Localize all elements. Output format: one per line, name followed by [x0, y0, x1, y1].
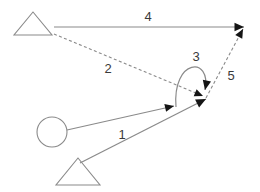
- triangle-bottom[interactable]: [56, 158, 100, 185]
- circle-left[interactable]: [37, 117, 67, 147]
- edge-label-5: 5: [227, 68, 234, 83]
- diagram-canvas: 1 2 3 4 5: [0, 0, 260, 192]
- labels-layer: 1 2 3 4 5: [104, 9, 234, 142]
- connector-2[interactable]: [54, 34, 203, 96]
- edge-label-4: 4: [144, 9, 151, 24]
- arrowhead-3: [203, 80, 211, 90]
- edge-label-2: 2: [104, 61, 111, 76]
- triangle-top-left[interactable]: [14, 12, 52, 35]
- connector-6[interactable]: [80, 99, 206, 163]
- connector-5[interactable]: [206, 29, 243, 98]
- arrowhead-1: [164, 104, 174, 112]
- arrowhead-5: [235, 29, 243, 39]
- edge-label-1: 1: [118, 127, 125, 142]
- connectors-layer: [54, 23, 244, 163]
- connector-1[interactable]: [67, 106, 174, 130]
- edge-label-3: 3: [192, 49, 199, 64]
- vector-diagram: 1 2 3 4 5: [0, 0, 260, 192]
